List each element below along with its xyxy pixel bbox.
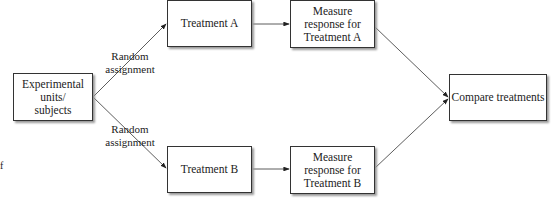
measure-a-line-2: response for	[304, 18, 361, 31]
stray-text: f	[0, 160, 3, 171]
measure-b-box: Measure response for Treatment B	[290, 146, 375, 194]
compare-box: Compare treatments	[449, 74, 547, 121]
edge-label-top-line-1: Random	[100, 50, 160, 63]
treatment-a-box: Treatment A	[167, 0, 252, 47]
edge-label-bottom-line-1: Random	[100, 123, 160, 136]
units-box: Experimental units/ subjects	[13, 73, 93, 121]
treatment-b-box: Treatment B	[167, 146, 252, 193]
treatment-b-label: Treatment B	[181, 163, 238, 176]
units-line-2: units/	[22, 91, 84, 104]
compare-label: Compare treatments	[452, 91, 545, 104]
treatment-a-label: Treatment A	[181, 17, 238, 30]
measure-a-line-3: Treatment A	[304, 31, 361, 44]
measure-b-line-3: Treatment B	[304, 177, 361, 190]
units-line-3: subjects	[22, 104, 84, 117]
units-line-1: Experimental	[22, 78, 84, 91]
arrow-measure-a-to-compare	[375, 27, 448, 97]
measure-b-line-2: response for	[304, 164, 361, 177]
edge-label-top: Random assignment	[100, 50, 160, 76]
measure-a-box: Measure response for Treatment A	[290, 0, 375, 48]
arrow-measure-b-to-compare	[375, 99, 448, 168]
edge-label-top-line-2: assignment	[100, 63, 160, 76]
measure-a-line-1: Measure	[304, 5, 361, 18]
edge-label-bottom-line-2: assignment	[100, 136, 160, 149]
edge-label-bottom: Random assignment	[100, 123, 160, 149]
measure-b-line-1: Measure	[304, 151, 361, 164]
